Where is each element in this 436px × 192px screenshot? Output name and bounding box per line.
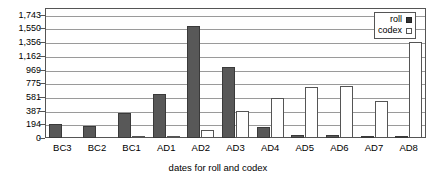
- open-square-icon: [406, 28, 412, 34]
- y-axis-tick-mark: [39, 138, 45, 139]
- x-axis-tick-label: AD2: [184, 142, 219, 153]
- x-axis-tick-label: BC3: [45, 142, 80, 153]
- bar-roll-AD2: [187, 26, 200, 138]
- bar-codex-AD4: [271, 98, 284, 138]
- y-axis-tick-label: 1,356: [1, 38, 41, 47]
- y-axis-tick-label: 1,162: [1, 52, 41, 61]
- bar-chart: 01943875817759691,1621,3561,5501,743 BC3…: [0, 0, 436, 192]
- bar-group: [287, 8, 322, 138]
- legend-label-roll: roll: [390, 14, 402, 25]
- bar-codex-AD1: [167, 136, 180, 138]
- bar-codex-AD8: [409, 42, 422, 138]
- y-axis-tick-label: 1,743: [1, 11, 41, 20]
- legend-label-codex: codex: [378, 25, 402, 36]
- y-axis-tick-label: 387: [1, 107, 41, 116]
- bar-roll-AD3: [222, 67, 235, 138]
- bar-roll-BC2: [83, 126, 96, 138]
- bar-roll-AD4: [257, 127, 270, 138]
- bar-group: [45, 8, 80, 138]
- y-axis-tick-label: 775: [1, 79, 41, 88]
- y-axis-tick-label: 1,550: [1, 24, 41, 33]
- bar-codex-AD5: [305, 87, 318, 138]
- bar-roll-BC3: [49, 124, 62, 138]
- bar-group: [149, 8, 184, 138]
- chart-legend: roll codex: [374, 12, 416, 39]
- x-axis-tick-label: AD5: [287, 142, 322, 153]
- bar-roll-AD8: [395, 136, 408, 138]
- y-axis-tick-label: 969: [1, 66, 41, 75]
- bar-group: [253, 8, 288, 138]
- x-axis-tick-label: BC2: [80, 142, 115, 153]
- x-axis-tick-label: BC1: [114, 142, 149, 153]
- bar-group: [114, 8, 149, 138]
- bar-codex-AD6: [340, 86, 353, 138]
- y-axis-tick-label: 581: [1, 93, 41, 102]
- x-axis-tick-label: AD7: [357, 142, 392, 153]
- bar-codex-AD7: [375, 101, 388, 138]
- legend-item-codex: codex: [378, 25, 412, 36]
- y-axis-tick-label: 0: [1, 134, 41, 143]
- y-axis-tick-label: 194: [1, 120, 41, 129]
- bar-group: [322, 8, 357, 138]
- x-axis-tick-label: AD3: [218, 142, 253, 153]
- bar-codex-BC1: [132, 136, 145, 138]
- x-axis-tick-label: AD6: [322, 142, 357, 153]
- filled-square-icon: [406, 17, 412, 23]
- bar-group: [218, 8, 253, 138]
- x-axis-title: dates for roll and codex: [0, 162, 436, 173]
- bar-roll-AD5: [291, 135, 304, 138]
- x-axis-tick-label: AD1: [149, 142, 184, 153]
- bar-group: [184, 8, 219, 138]
- bar-codex-AD2: [201, 130, 214, 138]
- x-axis-tick-label: AD4: [253, 142, 288, 153]
- bars-layer: [45, 8, 426, 138]
- bar-roll-AD7: [361, 136, 374, 138]
- bar-roll-AD6: [326, 135, 339, 138]
- bar-roll-BC1: [118, 113, 131, 138]
- legend-item-roll: roll: [378, 14, 412, 25]
- bar-group: [80, 8, 115, 138]
- x-axis-tick-label: AD8: [391, 142, 426, 153]
- bar-roll-AD1: [153, 94, 166, 138]
- bar-codex-AD3: [236, 111, 249, 138]
